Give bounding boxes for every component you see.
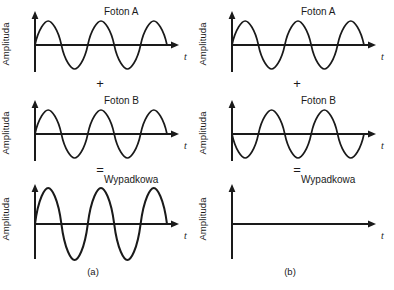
- plot-resultant: [211, 183, 394, 255]
- plot-photon-b: [14, 97, 197, 169]
- axes-group: [229, 11, 376, 72]
- wave-row-photon-a: Amplituda Foton A t: [197, 8, 394, 80]
- axes-group: [229, 184, 376, 259]
- panel-b: Amplituda Foton A t + Amplituda Foton B: [197, 0, 394, 290]
- wave-row-photon-b: Amplituda Foton B t: [0, 97, 197, 169]
- wave-svg-photon-b: [14, 97, 197, 169]
- wave-row-photon-a: Amplituda Foton A t: [0, 8, 197, 80]
- x-axis-label: t: [381, 230, 384, 241]
- panel-a: Amplituda Foton A t + Amplituda Foton B: [0, 0, 197, 290]
- axes-group: [32, 11, 179, 72]
- plot-photon-a: [211, 8, 394, 80]
- x-axis-label: t: [184, 51, 187, 62]
- y-axis-label: Amplituda: [0, 197, 11, 240]
- y-axis-label: Amplituda: [0, 111, 11, 154]
- y-axis-label: Amplituda: [197, 22, 208, 65]
- wave-svg-photon-a: [211, 8, 394, 80]
- plot-photon-b: [211, 97, 394, 169]
- operator-plus: +: [287, 76, 307, 91]
- x-axis-label: t: [381, 140, 384, 151]
- panel-caption-a: (a): [73, 266, 113, 277]
- x-axis-label: t: [184, 140, 187, 151]
- wave-row-resultant: Amplituda Wypadkowa t: [197, 183, 394, 255]
- x-axis-label: t: [184, 230, 187, 241]
- y-axis-label: Amplituda: [197, 197, 208, 240]
- y-axis-label: Amplituda: [197, 111, 208, 154]
- wave-row-resultant: Amplituda Wypadkowa t: [0, 183, 197, 255]
- y-axis-label: Amplituda: [0, 22, 11, 65]
- plot-resultant: [14, 183, 197, 255]
- wave-row-photon-b: Amplituda Foton B t: [197, 97, 394, 169]
- wave-svg-photon-b: [211, 97, 394, 169]
- operator-plus: +: [90, 76, 110, 91]
- wave-svg-resultant: [14, 183, 197, 263]
- panel-caption-b: (b): [270, 266, 310, 277]
- x-axis-label: t: [381, 51, 384, 62]
- wave-svg-resultant: [211, 183, 394, 263]
- plot-photon-a: [14, 8, 197, 80]
- wave-svg-photon-a: [14, 8, 197, 80]
- axes-group: [32, 100, 179, 161]
- axes-group: [229, 100, 376, 161]
